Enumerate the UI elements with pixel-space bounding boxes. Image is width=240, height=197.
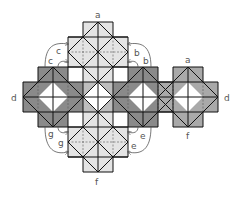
label-c-outer: c [56,46,61,56]
label-a-top: a [95,10,101,20]
label-b-inner: b [143,56,149,66]
label-b-outer: b [134,48,140,58]
label-g-inner: g [58,138,64,148]
label-f-right: f [186,131,190,141]
label-e-inner: e [131,141,137,151]
label-f-bottom: f [95,177,99,187]
label-c-inner: c [48,56,53,66]
polyhedron-net-diagram: a a c c b b d d g g e e f f [0,0,240,197]
label-e-outer: e [140,131,146,141]
label-d-left: d [11,93,17,103]
label-g-outer: g [48,129,54,139]
label-a-right: a [185,55,191,65]
label-d-right: d [224,93,230,103]
